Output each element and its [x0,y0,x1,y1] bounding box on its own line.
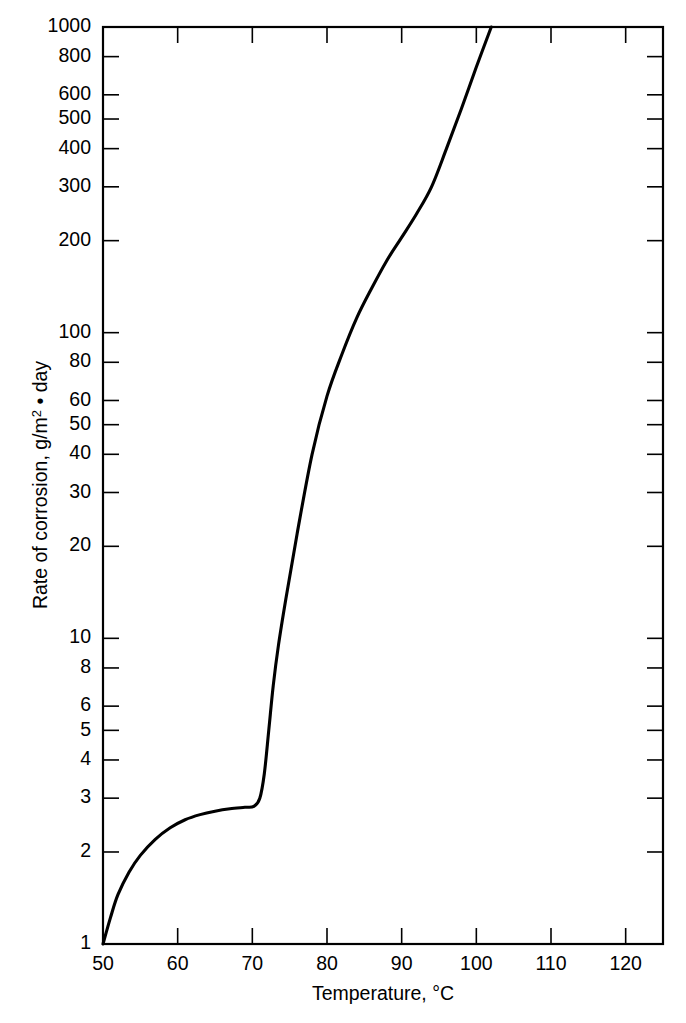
y-axis-title-part1: Rate of corrosion, g/m [29,417,51,609]
y-tick-label-80: 80 [69,349,91,371]
y-tick-label-20: 20 [69,533,91,555]
y-tick-label-8: 8 [80,655,91,677]
figure-container: 1234568102030405060801002003004005006008… [0,0,686,1023]
y-tick-label-100: 100 [58,320,91,342]
y-tick-label-1000: 1000 [48,14,92,36]
y-tick-label-1: 1 [80,931,91,953]
x-tick-label-60: 60 [167,952,189,974]
y-tick-label-600: 600 [58,82,91,104]
y-tick-label-5: 5 [80,718,91,740]
y-tick-label-10: 10 [69,625,91,647]
corrosion-rate-chart: 1234568102030405060801002003004005006008… [0,0,686,1023]
y-tick-label-40: 40 [69,441,91,463]
x-tick-label-80: 80 [316,952,338,974]
y-tick-label-3: 3 [80,785,91,807]
y-tick-label-800: 800 [58,44,91,66]
y-tick-label-400: 400 [58,136,91,158]
y-axis-title-part2: • day [29,361,51,410]
y-axis-title: Rate of corrosion, g/m2 • day [29,361,51,609]
y-tick-label-300: 300 [58,174,91,196]
x-tick-label-70: 70 [241,952,263,974]
y-tick-label-50: 50 [69,412,91,434]
y-tick-label-30: 30 [69,480,91,502]
x-axis-title: Temperature, °C [312,982,454,1004]
x-tick-label-110: 110 [535,952,566,974]
y-tick-label-4: 4 [80,747,91,769]
y-axis-title-superscript: 2 [29,410,44,417]
x-tick-label-100: 100 [460,952,493,974]
y-tick-label-500: 500 [58,106,91,128]
x-tick-label-120: 120 [609,952,642,974]
y-axis-title-group: Rate of corrosion, g/m2 • day [29,361,51,609]
x-tick-label-90: 90 [391,952,413,974]
y-tick-label-6: 6 [80,693,91,715]
x-tick-label-50: 50 [92,952,114,974]
y-tick-label-2: 2 [80,839,91,861]
y-tick-label-200: 200 [58,228,91,250]
y-tick-label-60: 60 [69,388,91,410]
